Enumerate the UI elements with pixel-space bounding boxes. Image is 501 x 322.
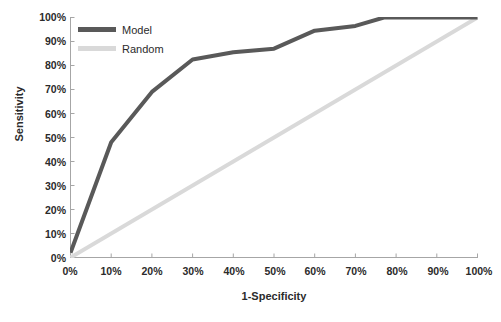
- y-tick-label: 40%: [26, 157, 66, 167]
- y-tick-label: 30%: [26, 181, 66, 191]
- x-axis-title: 1-Specificity: [70, 290, 478, 302]
- y-tick-label: 100%: [26, 12, 66, 22]
- legend-label-random: Random: [122, 43, 164, 55]
- y-tick-label: 10%: [26, 229, 66, 239]
- y-tick-label: 60%: [26, 109, 66, 119]
- x-tick-label: 10%: [88, 265, 134, 277]
- y-tick-label: 70%: [26, 84, 66, 94]
- y-tick-label: 0%: [26, 253, 66, 263]
- y-tick-label: 90%: [26, 36, 66, 46]
- x-tick-label: 90%: [415, 265, 461, 277]
- legend: Model Random: [78, 22, 188, 60]
- legend-item-random: Random: [78, 41, 188, 56]
- legend-label-model: Model: [122, 24, 152, 36]
- x-tick-label: 40%: [211, 265, 257, 277]
- x-tick-label: 30%: [170, 265, 216, 277]
- x-tick-label: 80%: [374, 265, 420, 277]
- legend-item-model: Model: [78, 22, 188, 37]
- x-tick-label: 60%: [292, 265, 338, 277]
- x-tick-label: 100%: [456, 265, 501, 277]
- x-tick-label: 0%: [47, 265, 93, 277]
- legend-swatch-random: [78, 46, 116, 51]
- roc-chart: Sensitivity 100% 90% 80% 70% 60% 50% 40%…: [0, 0, 501, 322]
- x-tick-label: 70%: [333, 265, 379, 277]
- legend-swatch-model: [78, 27, 116, 32]
- y-tick-label: 50%: [26, 133, 66, 143]
- y-tick-label: 80%: [26, 60, 66, 70]
- y-tick-label: 20%: [26, 205, 66, 215]
- x-tick-label: 20%: [129, 265, 175, 277]
